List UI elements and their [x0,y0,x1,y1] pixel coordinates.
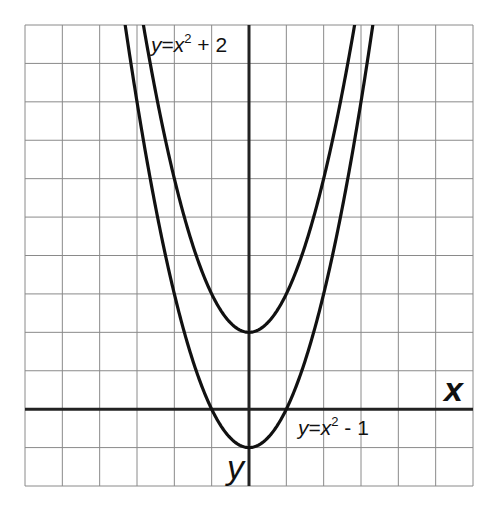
upper-curve-label: y=x2 + 2 [151,33,227,57]
y-axis-label: y [227,448,244,487]
parabola-plot [0,0,494,508]
label-x: x [321,416,332,439]
label-x: x [174,33,185,56]
label-exponent: 2 [331,414,338,429]
label-y: y [151,33,162,56]
x-axis-label: x [444,370,463,409]
label-exponent: 2 [184,31,191,46]
label-y: y [298,416,309,439]
lower-curve-label: y=x2 - 1 [298,416,369,440]
label-constant: + 2 [192,33,228,56]
label-equals: = [162,33,174,56]
label-equals: = [309,416,321,439]
label-constant: - 1 [339,416,369,439]
